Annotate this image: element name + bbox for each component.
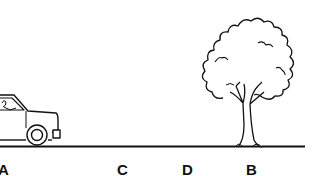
label-b: B	[246, 162, 257, 176]
car	[0, 95, 60, 145]
tree	[202, 18, 293, 147]
label-a: A	[0, 162, 9, 176]
label-d: D	[182, 162, 193, 176]
diagram-drawing	[0, 0, 319, 176]
diagram: A C D B	[0, 0, 319, 176]
label-c: C	[117, 162, 128, 176]
